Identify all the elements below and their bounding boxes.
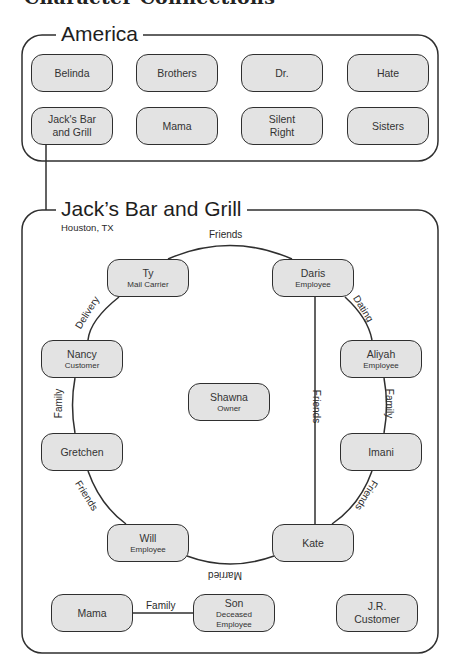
character-mama[interactable]: Mama xyxy=(51,594,133,632)
edge-will-kate xyxy=(187,556,274,564)
character-role: Mail Carrier xyxy=(127,280,168,290)
america-item-mama[interactable]: Mama xyxy=(136,107,218,145)
item-label: Hate xyxy=(377,67,399,80)
character-imani[interactable]: Imani xyxy=(340,433,422,471)
character-kate[interactable]: Kate xyxy=(272,524,354,562)
character-role: Deceased Employee xyxy=(216,610,252,630)
character-gretchen[interactable]: Gretchen xyxy=(41,433,123,471)
character-role: Customer xyxy=(354,613,400,626)
america-item-jacks-bar[interactable]: Jack's Bar and Grill xyxy=(31,107,113,145)
item-label: Belinda xyxy=(54,67,89,80)
edge-nancy-gretchen xyxy=(73,378,76,433)
character-name: Mama xyxy=(77,607,106,620)
character-name: Nancy xyxy=(67,348,97,361)
relationship-label-ty-daris: Friends xyxy=(209,229,242,240)
character-name: Gretchen xyxy=(60,446,103,459)
america-item-dr[interactable]: Dr. xyxy=(241,54,323,92)
item-label: Jack's Bar and Grill xyxy=(48,113,96,139)
character-shawna[interactable]: Shawna Owner xyxy=(188,383,270,421)
edge-ty-daris xyxy=(168,246,292,260)
america-item-sisters[interactable]: Sisters xyxy=(347,107,429,145)
page-title: Character Connections xyxy=(24,0,275,8)
character-name: Son xyxy=(225,597,244,610)
item-label: Dr. xyxy=(275,67,288,80)
america-group-title: America xyxy=(56,22,143,46)
character-name: Kate xyxy=(302,537,324,550)
character-name: Shawna xyxy=(210,391,248,404)
character-name: Daris xyxy=(301,267,326,280)
jacks-group-frame xyxy=(22,210,438,653)
item-label: Sisters xyxy=(372,120,404,133)
item-label: Mama xyxy=(162,120,191,133)
character-role: Employee xyxy=(363,361,399,371)
america-item-silent-right[interactable]: Silent Right xyxy=(241,107,323,145)
character-name: Imani xyxy=(368,446,394,459)
character-daris[interactable]: Daris Employee xyxy=(272,259,354,297)
jacks-group-title: Jack’s Bar and Grill xyxy=(56,197,247,221)
item-label: Brothers xyxy=(157,67,197,80)
character-nancy[interactable]: Nancy Customer xyxy=(41,340,123,378)
character-aliyah[interactable]: Aliyah Employee xyxy=(340,340,422,378)
character-name: Will xyxy=(140,532,157,545)
relationship-label-aliyah-imani: Family xyxy=(384,389,395,418)
character-role: Employee xyxy=(130,545,166,555)
character-will[interactable]: Will Employee xyxy=(107,524,189,562)
america-item-hate[interactable]: Hate xyxy=(347,54,429,92)
character-role: Customer xyxy=(65,361,100,371)
character-jr[interactable]: J.R. Customer xyxy=(336,594,418,632)
relationship-label-daris-kate: Friends xyxy=(311,390,322,423)
item-label: Silent Right xyxy=(269,113,295,139)
relationship-label-nancy-gretchen: Family xyxy=(53,389,64,418)
relationship-label-mama-son: Family xyxy=(146,600,175,611)
character-role: Owner xyxy=(217,404,241,414)
character-name: Aliyah xyxy=(367,348,396,361)
character-name: Ty xyxy=(142,267,153,280)
america-item-brothers[interactable]: Brothers xyxy=(136,54,218,92)
jacks-group-location: Houston, TX xyxy=(61,222,114,233)
character-ty[interactable]: Ty Mail Carrier xyxy=(107,259,189,297)
character-son[interactable]: Son Deceased Employee xyxy=(193,594,275,632)
character-name: J.R. xyxy=(368,600,387,613)
america-item-belinda[interactable]: Belinda xyxy=(31,54,113,92)
relationship-label-will-kate: Married xyxy=(208,570,242,581)
character-role: Employee xyxy=(295,280,331,290)
